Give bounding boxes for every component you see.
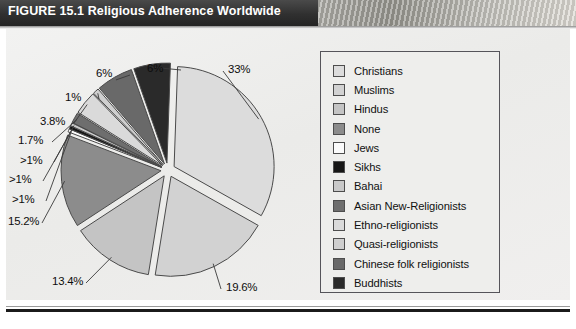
pct-hindus: 13.4% [52, 275, 83, 287]
legend-item-label: Sikhs [354, 161, 381, 173]
pct-ethno: 3.8% [40, 115, 65, 127]
legend-swatch-icon [333, 277, 345, 289]
legend-item[interactable]: Jews [333, 138, 499, 157]
figure-number: FIGURE 15.1 [8, 4, 84, 18]
legend-swatch-icon [333, 219, 345, 231]
legend-swatch-icon [333, 123, 345, 135]
legend-box: ChristiansMuslimsHindusNoneJewsSikhsBaha… [320, 51, 500, 293]
pct-none: 15.2% [8, 215, 39, 227]
legend-item-label: Asian New-Religionists [354, 200, 466, 212]
divider-thick [6, 309, 570, 312]
legend-swatch-icon [333, 200, 345, 212]
legend-item-label: Chinese folk religionists [354, 258, 469, 270]
pct-quasi: 1% [65, 91, 81, 103]
legend-item-label: Buddhists [354, 277, 402, 289]
legend-item[interactable]: Quasi-religionists [333, 235, 499, 254]
legend-swatch-icon [333, 103, 345, 115]
legend-item-label: Muslims [354, 84, 394, 96]
figure-container: FIGURE 15.1 Religious Adherence Worldwid… [0, 0, 576, 329]
legend-swatch-icon [333, 161, 345, 173]
pie-slices [61, 63, 274, 276]
legend-item-label: None [354, 123, 380, 135]
legend-item[interactable]: Asian New-Religionists [333, 196, 499, 215]
legend-item[interactable]: Sikhs [333, 157, 499, 176]
pct-jews: >1% [12, 193, 35, 205]
pct-muslims: 19.6% [226, 281, 257, 293]
legend-item[interactable]: Hindus [333, 100, 499, 119]
legend-swatch-icon [333, 142, 345, 154]
legend-item[interactable]: Christians [333, 61, 499, 80]
legend-item[interactable]: Ethno-religionists [333, 215, 499, 234]
legend-swatch-icon [333, 180, 345, 192]
legend-item-label: Hindus [354, 103, 388, 115]
divider-thin [6, 306, 570, 307]
legend-item[interactable]: None [333, 119, 499, 138]
leader-line [213, 264, 221, 289]
leader-line [86, 257, 111, 283]
legend-swatch-icon [333, 258, 345, 270]
pct-asian-new: 1.7% [18, 134, 43, 146]
legend-item-label: Quasi-religionists [354, 238, 438, 250]
leader-line [42, 181, 65, 223]
pct-bahai: >1% [20, 154, 43, 166]
legend-item-label: Jews [354, 142, 379, 154]
figure-title-text: Religious Adherence Worldwide [88, 4, 281, 18]
pct-buddhists: 6% [147, 62, 163, 74]
pct-christians: 33% [228, 63, 250, 75]
legend-item[interactable]: Buddhists [333, 273, 499, 292]
legend-item-label: Ethno-religionists [354, 219, 438, 231]
legend-swatch-icon [333, 238, 345, 250]
legend-item[interactable]: Bahai [333, 177, 499, 196]
legend-item-label: Christians [354, 65, 403, 77]
legend-swatch-icon [333, 65, 345, 77]
page-title: FIGURE 15.1 Religious Adherence Worldwid… [8, 4, 281, 18]
legend-item-label: Bahai [354, 180, 382, 192]
legend-item[interactable]: Muslims [333, 80, 499, 99]
legend-item[interactable]: Chinese folk religionists [333, 254, 499, 273]
pct-sikhs: >1% [9, 173, 32, 185]
legend-swatch-icon [333, 84, 345, 96]
pct-chinese-folk: 6% [96, 67, 112, 79]
